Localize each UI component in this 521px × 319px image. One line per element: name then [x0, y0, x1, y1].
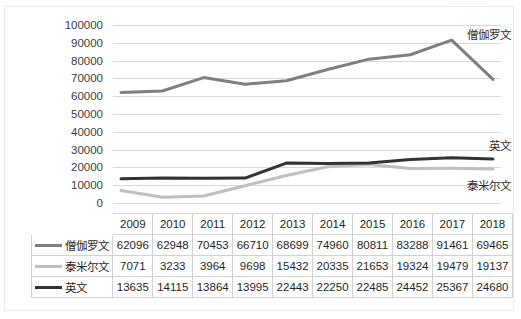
table-cell: 14115: [153, 277, 193, 298]
table-row-label: 英文: [65, 279, 87, 295]
chart-screenshot-root: · ··· · ·· 10000090000800007000060000500…: [0, 0, 521, 319]
y-tick-label: 100000: [65, 19, 103, 31]
table-cell: 19479: [432, 256, 472, 277]
series-line: [121, 164, 493, 197]
table-column-header: 2010: [153, 214, 193, 235]
table-row: 英文13635141151386413995224432225022485244…: [32, 277, 513, 298]
y-tick-label: 60000: [71, 90, 103, 102]
series-line: [121, 40, 493, 92]
table-cell: 7071: [113, 256, 153, 277]
table-cell: 13635: [113, 277, 153, 298]
table-corner-cell: [32, 214, 113, 235]
y-tick-label: 20000: [71, 161, 103, 173]
table-row: 僧伽罗文620966294870453667106869974960808118…: [32, 235, 513, 256]
table-cell: 24452: [392, 277, 432, 298]
y-tick-label: 30000: [71, 144, 103, 156]
y-tick-label: 10000: [71, 179, 103, 191]
table-cell: 24680: [472, 277, 512, 298]
table-cell: 13864: [193, 277, 233, 298]
legend-swatch-icon: [35, 244, 62, 247]
table-cell: 22485: [353, 277, 393, 298]
table-column-header: 2016: [392, 214, 432, 235]
table-column-header: 2014: [313, 214, 353, 235]
table-row-label-cell: 英文: [32, 277, 113, 298]
series-label-english: 英文: [489, 137, 511, 153]
y-tick-label: 70000: [71, 72, 103, 84]
table-row-label: 泰米尔文: [65, 258, 109, 274]
table-cell: 91461: [432, 235, 472, 256]
table-cell: 66710: [233, 235, 273, 256]
gridline: [113, 203, 501, 204]
legend-swatch-icon: [35, 286, 62, 289]
y-tick-label: 90000: [71, 37, 103, 49]
table-cell: 21653: [353, 256, 393, 277]
table-cell: 15432: [273, 256, 313, 277]
y-axis-tick-labels: 1000009000080000700006000050000400003000…: [5, 7, 109, 213]
series-label-sinhala: 僧伽罗文: [467, 26, 511, 42]
series-lines: [113, 25, 501, 203]
table-row-label-cell: 泰米尔文: [32, 256, 113, 277]
table-cell: 80811: [353, 235, 393, 256]
table-header-row: 2009201020112012201320142015201620172018: [32, 214, 513, 235]
chart-plot-region: 1000009000080000700006000050000400003000…: [5, 7, 515, 213]
table-row: 泰米尔文707132333964969815432203352165319324…: [32, 256, 513, 277]
table-cell: 74960: [313, 235, 353, 256]
table-column-header: 2012: [233, 214, 273, 235]
table-cell: 20335: [313, 256, 353, 277]
table-cell: 68699: [273, 235, 313, 256]
table-cell: 19324: [392, 256, 432, 277]
table-cell: 62096: [113, 235, 153, 256]
table-row-label: 僧伽罗文: [65, 237, 109, 253]
table-cell: 19137: [472, 256, 512, 277]
chart-data-table: 2009201020112012201320142015201620172018…: [31, 213, 513, 298]
y-tick-label: 50000: [71, 108, 103, 120]
table-cell: 83288: [392, 235, 432, 256]
table-cell: 62948: [153, 235, 193, 256]
table-cell: 13995: [233, 277, 273, 298]
table-cell: 9698: [233, 256, 273, 277]
table-cell: 70453: [193, 235, 233, 256]
table-column-header: 2013: [273, 214, 313, 235]
table-cell: 22250: [313, 277, 353, 298]
table-row-label-cell: 僧伽罗文: [32, 235, 113, 256]
table-cell: 22443: [273, 277, 313, 298]
table-column-header: 2018: [472, 214, 512, 235]
table-cell: 69465: [472, 235, 512, 256]
y-tick-label: 80000: [71, 55, 103, 67]
y-tick-label: 0: [97, 197, 103, 209]
table-column-header: 2017: [432, 214, 472, 235]
table-cell: 3964: [193, 256, 233, 277]
table-column-header: 2011: [193, 214, 233, 235]
y-tick-label: 40000: [71, 126, 103, 138]
legend-swatch-icon: [35, 265, 62, 268]
table-cell: 25367: [432, 277, 472, 298]
plot-area: [113, 25, 501, 203]
series-label-tamil: 泰米尔文: [467, 177, 511, 193]
chart-object-frame: 1000009000080000700006000050000400003000…: [4, 6, 514, 311]
table-column-header: 2009: [113, 214, 153, 235]
table-column-header: 2015: [353, 214, 393, 235]
table-cell: 3233: [153, 256, 193, 277]
